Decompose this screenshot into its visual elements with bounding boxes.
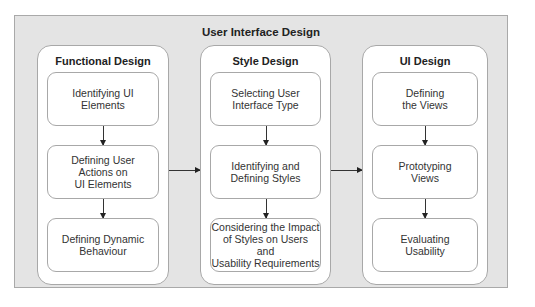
step-identifying-ui-elements: Identifying UI Elements (47, 72, 159, 126)
arrow-down-icon (103, 199, 104, 218)
step-evaluating-usability: Evaluating Usability (372, 218, 478, 272)
step-identifying-defining-styles: Identifying and Defining Styles (210, 145, 321, 199)
arrow-right-icon (169, 170, 200, 171)
panel-title: Functional Design (38, 55, 168, 67)
panel-title: Style Design (201, 55, 330, 67)
arrow-down-icon (266, 199, 267, 218)
step-defining-user-actions: Defining User Actions on UI Elements (47, 145, 159, 199)
user-interface-design-container: User Interface Design Functional Design … (14, 15, 508, 288)
arrow-down-icon (266, 126, 267, 145)
step-selecting-user-interface-type: Selecting User Interface Type (210, 72, 321, 126)
arrow-down-icon (425, 199, 426, 218)
ui-design-panel: UI Design Defining the Views Prototyping… (362, 45, 488, 285)
style-design-panel: Style Design Selecting User Interface Ty… (200, 45, 331, 285)
functional-design-panel: Functional Design Identifying UI Element… (37, 45, 169, 285)
step-considering-impact-of-styles: Considering the Impact of Styles on User… (210, 218, 321, 272)
step-defining-dynamic-behaviour: Defining Dynamic Behaviour (47, 218, 159, 272)
arrow-down-icon (103, 126, 104, 145)
step-prototyping-views: Prototyping Views (372, 145, 478, 199)
panel-title: UI Design (363, 55, 487, 67)
arrow-down-icon (425, 126, 426, 145)
arrow-right-icon (331, 170, 362, 171)
diagram-title: User Interface Design (15, 26, 507, 38)
step-defining-the-views: Defining the Views (372, 72, 478, 126)
